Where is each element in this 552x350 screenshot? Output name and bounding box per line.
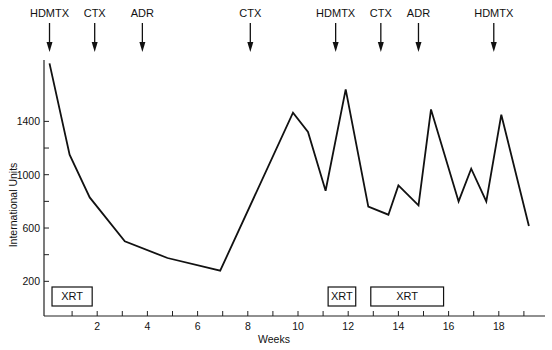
data-series [50, 63, 529, 270]
arrow-down-icon [378, 42, 384, 52]
x-tick-label: 12 [342, 320, 354, 332]
x-tick-label: 4 [144, 320, 150, 332]
drug-label: HDMTX [30, 7, 70, 19]
drug-label: ADR [407, 7, 430, 19]
drug-arrow: CTX [370, 7, 393, 52]
chart: 2468101214161820060010001400 HDMTXCTXADR… [0, 0, 552, 350]
drug-arrow: HDMTX [30, 7, 70, 52]
y-tick-label: 600 [22, 222, 40, 234]
axes: 2468101214161820060010001400 [17, 60, 545, 332]
x-tick-label: 2 [94, 320, 100, 332]
y-tick-label: 1000 [17, 169, 41, 181]
drug-arrow: HDMTX [316, 7, 356, 52]
y-axis-label: International Units [7, 163, 19, 248]
arrow-down-icon [247, 42, 253, 52]
arrow-down-icon [139, 42, 145, 52]
drug-label: ADR [131, 7, 154, 19]
drug-arrow: CTX [84, 7, 107, 52]
drug-label: CTX [370, 7, 393, 19]
drug-arrow: CTX [239, 7, 262, 52]
series-line [50, 63, 529, 270]
arrow-down-icon [47, 42, 53, 52]
x-axis-label: Weeks [258, 333, 290, 345]
x-tick-label: 6 [195, 320, 201, 332]
xrt-box: XRT [371, 287, 444, 306]
xrt-box: XRT [52, 287, 92, 306]
xrt-label: XRT [331, 290, 353, 302]
arrow-down-icon [415, 42, 421, 52]
drug-label: HDMTX [316, 7, 356, 19]
x-tick-label: 14 [393, 320, 405, 332]
x-tick-label: 10 [292, 320, 304, 332]
arrow-down-icon [333, 42, 339, 52]
drug-label: CTX [84, 7, 107, 19]
drug-label: CTX [239, 7, 262, 19]
x-tick-label: 8 [245, 320, 251, 332]
y-tick-label: 200 [22, 275, 40, 287]
drug-arrow: ADR [131, 7, 154, 52]
drug-arrow: ADR [407, 7, 430, 52]
x-tick-label: 18 [493, 320, 505, 332]
y-tick-label: 1400 [17, 115, 41, 127]
drug-arrow: HDMTX [474, 7, 514, 52]
x-tick-label: 16 [443, 320, 455, 332]
xrt-label: XRT [396, 290, 418, 302]
xrt-label: XRT [61, 290, 83, 302]
drug-label: HDMTX [474, 7, 514, 19]
xrt-box: XRT [328, 287, 356, 306]
arrow-down-icon [491, 42, 497, 52]
arrow-down-icon [92, 42, 98, 52]
